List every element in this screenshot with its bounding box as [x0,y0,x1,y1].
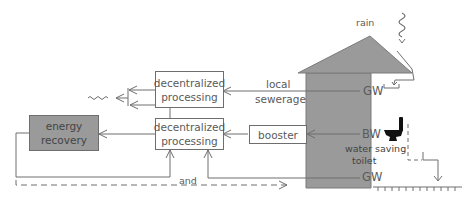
sewerage-label: sewerage [255,93,306,106]
node-label-line1: decentralized [154,76,225,90]
gw-bottom-label: GW [362,171,382,184]
bw-label: BW [362,128,381,141]
node-label-line2: recovery [41,133,87,147]
rain-label: rain [356,16,374,29]
local-label: local [266,78,290,91]
decentralized-processing-top-node: decentralized processing [155,71,224,108]
diagram-canvas [0,0,465,203]
rain-icon [399,13,405,37]
discharge-wave-icon [88,97,108,100]
node-label: booster [258,128,298,142]
energy-recovery-node: energy recovery [29,115,99,151]
node-label-line2: processing [161,134,218,148]
and-label: and [179,174,197,187]
gw-top-label: GW [363,85,383,98]
toilet-icon [384,117,403,141]
toilet-label: toilet [352,154,376,167]
ground-icon [373,187,462,191]
decentralized-processing-main-node: decentralized processing [155,118,224,150]
node-label-line2: processing [161,90,218,104]
rain-tank-icon [384,84,399,88]
node-label-line1: energy [46,119,83,133]
node-label-line1: decentralized [154,120,225,134]
booster-node: booster [249,125,307,144]
